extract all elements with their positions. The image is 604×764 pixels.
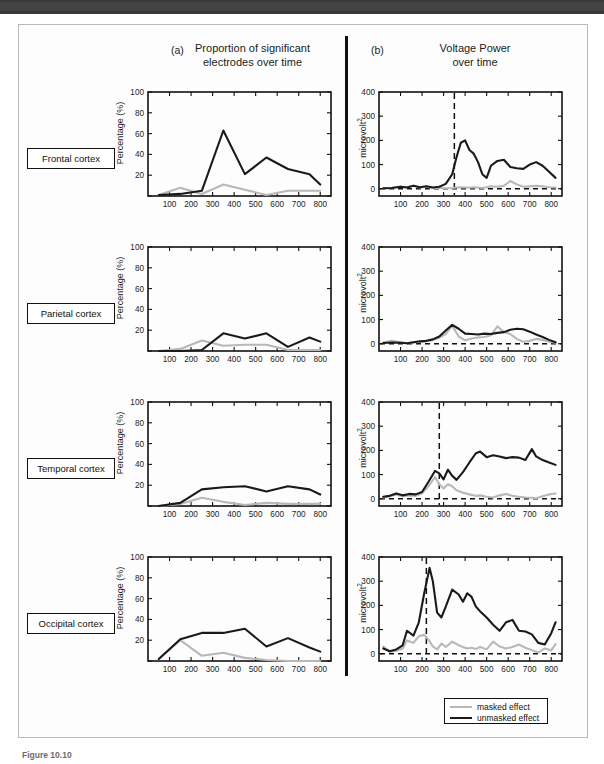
x-tick-label-700: 700 <box>292 200 306 209</box>
x-tick-label-100: 100 <box>394 355 408 364</box>
subplot-occipital-voltage-power: 1002003004005006007008000100200300400 <box>361 553 562 674</box>
legend-item-unmasked: unmasked effect <box>448 712 544 723</box>
x-tick-label-200: 200 <box>184 200 198 209</box>
x-tick-label-300: 300 <box>437 665 451 674</box>
x-tick-label-200: 200 <box>184 510 198 519</box>
x-tick-label-200: 200 <box>415 200 429 209</box>
y-tick-label-200: 200 <box>361 601 375 610</box>
y-tick-label-20: 20 <box>135 636 145 645</box>
x-tick-label-300: 300 <box>206 355 220 364</box>
subplot-temporal-voltage-power: 1002003004005006007008000100200300400 <box>361 398 562 519</box>
y-tick-label-80: 80 <box>135 264 145 273</box>
legend-label-unmasked: unmasked effect <box>477 713 539 723</box>
legend-swatch-unmasked <box>450 717 472 719</box>
y-tick-label-0: 0 <box>370 340 375 349</box>
series-masked-effect-occipital-voltage-power <box>383 635 555 653</box>
y-tick-label-40: 40 <box>135 305 145 314</box>
x-tick-label-600: 600 <box>501 355 515 364</box>
x-tick-label-100: 100 <box>163 510 177 519</box>
x-tick-label-700: 700 <box>523 355 537 364</box>
x-tick-label-400: 400 <box>227 200 241 209</box>
y-tick-label-200: 200 <box>361 291 375 300</box>
x-tick-label-800: 800 <box>544 510 558 519</box>
x-tick-label-200: 200 <box>415 355 429 364</box>
x-tick-label-800: 800 <box>313 200 327 209</box>
x-tick-label-800: 800 <box>544 665 558 674</box>
y-tick-label-100: 100 <box>361 471 375 480</box>
plot-frame-parietal-voltage-power <box>379 247 562 351</box>
y-tick-label-100: 100 <box>130 243 144 252</box>
y-tick-label-80: 80 <box>135 109 145 118</box>
x-tick-label-800: 800 <box>313 510 327 519</box>
y-tick-label-400: 400 <box>361 553 375 562</box>
subplot-frontal-proportion: 10020030040050060070080020406080100 <box>130 88 331 209</box>
subplot-parietal-voltage-power: 1002003004005006007008000100200300400 <box>361 243 562 364</box>
x-tick-label-300: 300 <box>206 200 220 209</box>
x-tick-label-400: 400 <box>227 665 241 674</box>
x-tick-label-700: 700 <box>292 510 306 519</box>
y-tick-label-400: 400 <box>361 243 375 252</box>
x-tick-label-300: 300 <box>437 510 451 519</box>
x-tick-label-800: 800 <box>313 665 327 674</box>
y-tick-label-300: 300 <box>361 422 375 431</box>
legend-item-masked: masked effect <box>448 701 544 712</box>
x-tick-label-600: 600 <box>270 355 284 364</box>
y-tick-label-80: 80 <box>135 574 145 583</box>
y-tick-label-200: 200 <box>361 446 375 455</box>
series-masked-effect-parietal-proportion <box>159 341 320 351</box>
x-tick-label-400: 400 <box>458 665 472 674</box>
subplot-temporal-proportion: 10020030040050060070080020406080100 <box>130 398 331 519</box>
y-tick-label-60: 60 <box>135 440 145 449</box>
y-tick-label-100: 100 <box>361 161 375 170</box>
x-tick-label-700: 700 <box>523 200 537 209</box>
x-tick-label-700: 700 <box>292 355 306 364</box>
subplot-occipital-proportion: 10020030040050060070080020406080100 <box>130 553 331 674</box>
y-tick-label-100: 100 <box>130 553 144 562</box>
y-tick-label-100: 100 <box>361 626 375 635</box>
y-tick-label-60: 60 <box>135 130 145 139</box>
x-tick-label-600: 600 <box>501 665 515 674</box>
legend-label-masked: masked effect <box>477 702 530 712</box>
x-tick-label-500: 500 <box>480 665 494 674</box>
y-tick-label-100: 100 <box>130 88 144 97</box>
y-tick-label-100: 100 <box>130 398 144 407</box>
x-tick-label-500: 500 <box>480 355 494 364</box>
y-tick-label-60: 60 <box>135 595 145 604</box>
x-tick-label-700: 700 <box>523 665 537 674</box>
subplot-frontal-voltage-power: 1002003004005006007008000100200300400 <box>361 88 562 209</box>
x-tick-label-800: 800 <box>313 355 327 364</box>
legend-swatch-masked <box>450 706 472 708</box>
x-tick-label-200: 200 <box>415 510 429 519</box>
y-tick-label-20: 20 <box>135 326 145 335</box>
x-tick-label-300: 300 <box>206 510 220 519</box>
x-tick-label-400: 400 <box>458 355 472 364</box>
plot-frame-occipital-voltage-power <box>379 557 562 661</box>
y-tick-label-100: 100 <box>361 316 375 325</box>
figure-caption: Figure 10.10 <box>22 750 72 762</box>
x-tick-label-400: 400 <box>227 510 241 519</box>
figure-page: (a) Proportion of significant electrodes… <box>0 0 604 764</box>
x-tick-label-600: 600 <box>270 510 284 519</box>
plot-frame-temporal-proportion <box>148 402 331 506</box>
x-tick-label-400: 400 <box>227 355 241 364</box>
y-tick-label-200: 200 <box>361 136 375 145</box>
plot-frame-frontal-voltage-power <box>379 92 562 196</box>
y-tick-label-20: 20 <box>135 481 145 490</box>
x-tick-label-200: 200 <box>415 665 429 674</box>
x-tick-label-500: 500 <box>480 510 494 519</box>
series-unmasked-effect-occipital-voltage-power <box>383 568 555 651</box>
x-tick-label-300: 300 <box>206 665 220 674</box>
y-tick-label-40: 40 <box>135 615 145 624</box>
series-unmasked-effect-frontal-proportion <box>159 130 320 194</box>
x-tick-label-600: 600 <box>270 200 284 209</box>
x-tick-label-500: 500 <box>249 665 263 674</box>
x-tick-label-500: 500 <box>249 510 263 519</box>
plot-frame-frontal-proportion <box>148 92 331 196</box>
y-tick-label-40: 40 <box>135 150 145 159</box>
x-tick-label-300: 300 <box>437 355 451 364</box>
series-unmasked-effect-frontal-voltage-power <box>383 140 555 188</box>
series-masked-effect-occipital-proportion <box>159 640 320 661</box>
y-tick-label-300: 300 <box>361 577 375 586</box>
y-tick-label-400: 400 <box>361 88 375 97</box>
series-unmasked-effect-temporal-voltage-power <box>383 449 555 497</box>
